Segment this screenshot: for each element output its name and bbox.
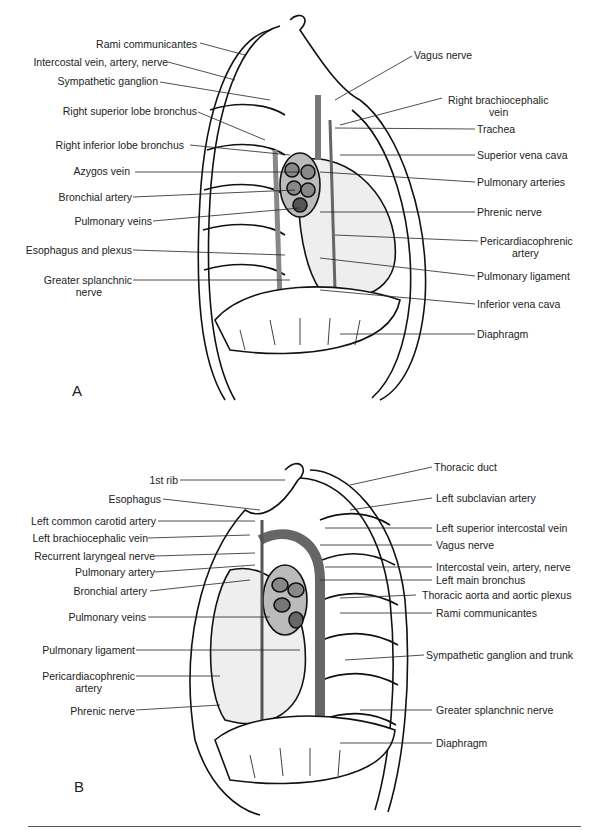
label-phrenic-nerve-b: Phrenic nerve <box>70 705 135 717</box>
label-superior-vena-cava: Superior vena cava <box>477 149 567 161</box>
label-vagus-nerve-b: Vagus nerve <box>436 539 494 551</box>
label-greater-splanchnic-nerve-b: Greater splanchnic nerve <box>436 704 553 716</box>
label-diaphragm-b: Diaphragm <box>436 737 487 749</box>
label-esophagus-and-plexus: Esophagus and plexus <box>26 244 132 256</box>
label-right-superior-lobe-bronchus: Right superior lobe bronchus <box>63 105 197 117</box>
label-sympathetic-ganglion-and-trunk: Sympathetic ganglion and trunk <box>426 649 573 661</box>
label-rami-communicantes-b: Rami communicantes <box>436 607 537 619</box>
label-intercostal-vein-artery-nerve-a: Intercostal vein, artery, nerve <box>33 56 168 68</box>
label-thoracic-aorta-and-aortic-plexus: Thoracic aorta and aortic plexus <box>422 589 571 601</box>
label-inferior-vena-cava: Inferior vena cava <box>477 298 560 310</box>
label-pulmonary-veins-a: Pulmonary veins <box>74 215 152 227</box>
label-vagus-nerve-a: Vagus nerve <box>414 49 472 61</box>
label-pericardiacophrenic-artery-b-line2: artery <box>75 682 102 694</box>
label-diaphragm-a: Diaphragm <box>477 328 528 340</box>
label-rami-communicantes-a: Rami communicantes <box>96 38 197 50</box>
bottom-divider <box>28 826 581 827</box>
label-thoracic-duct: Thoracic duct <box>434 461 497 473</box>
label-left-main-bronchus: Left main bronchus <box>436 574 525 586</box>
label-left-common-carotid-artery: Left common carotid artery <box>31 515 156 527</box>
label-left-brachiocephalic-vein: Left brachiocephalic vein <box>32 532 148 544</box>
label-bronchial-artery-a: Bronchial artery <box>58 191 132 203</box>
label-right-inferior-lobe-bronchus: Right inferior lobe bronchus <box>56 139 184 151</box>
label-left-subclavian-artery: Left subclavian artery <box>436 492 536 504</box>
label-sympathetic-ganglion-a: Sympathetic ganglion <box>58 75 158 87</box>
label-pulmonary-veins-b: Pulmonary veins <box>68 611 146 623</box>
label-pericardiacophrenic-artery-a-line2: artery <box>512 247 539 259</box>
label-intercostal-vein-artery-nerve-b: Intercostal vein, artery, nerve <box>436 561 571 573</box>
label-esophagus-b: Esophagus <box>108 493 161 505</box>
label-pericardiacophrenic-artery-a-line1: Pericardiacophrenic <box>480 235 573 247</box>
label-1st-rib: 1st rib <box>149 474 178 486</box>
label-left-superior-intercostal-vein: Left superior intercostal vein <box>436 522 567 534</box>
label-pulmonary-ligament-b: Pulmonary ligament <box>42 644 135 656</box>
label-pulmonary-arteries: Pulmonary arteries <box>477 176 565 188</box>
label-phrenic-nerve-a: Phrenic nerve <box>477 206 542 218</box>
label-right-brachiocephalic-vein-line2: vein <box>489 106 508 118</box>
panel-letter-a: A <box>72 382 82 399</box>
label-greater-splanchnic-nerve-a-line1: Greater splanchnic <box>44 274 132 286</box>
label-trachea: Trachea <box>477 123 515 135</box>
label-azygos-vein: Azygos vein <box>73 165 130 177</box>
label-pericardiacophrenic-artery-b-line1: Pericardiacophrenic <box>42 670 135 682</box>
label-greater-splanchnic-nerve-a-line2: nerve <box>76 286 102 298</box>
label-recurrent-laryngeal-nerve: Recurrent laryngeal nerve <box>34 550 155 562</box>
label-pulmonary-artery-b: Pulmonary artery <box>75 566 155 578</box>
panel-letter-b: B <box>74 778 84 795</box>
label-right-brachiocephalic-vein-line1: Right brachiocephalic <box>448 94 548 106</box>
label-pulmonary-ligament-a: Pulmonary ligament <box>477 270 570 282</box>
label-bronchial-artery-b: Bronchial artery <box>73 585 147 597</box>
